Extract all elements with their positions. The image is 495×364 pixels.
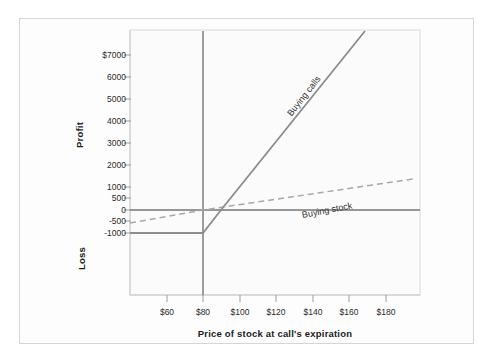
y-tick-label: 0 (121, 205, 126, 215)
figure-container: $7000 6000 5000 4000 3000 2000 1000 500 … (0, 0, 495, 364)
x-tick-label: $80 (196, 307, 210, 317)
y-tick-label: -1000 (104, 228, 126, 238)
y-tick-label: $7000 (102, 50, 126, 60)
y-tick-label: 2000 (107, 160, 126, 170)
x-axis-title: Price of stock at call's expiration (130, 328, 420, 339)
y-tick-label: 6000 (107, 72, 126, 82)
x-tick-marks (167, 295, 386, 302)
y-tick-label: 3000 (107, 138, 126, 148)
y-tick-label: 1000 (107, 182, 126, 192)
x-tick-label: $120 (267, 307, 286, 317)
y-axis-title-profit: Profit (74, 122, 85, 148)
x-tick-label: $160 (340, 307, 359, 317)
x-tick-label: $140 (304, 307, 323, 317)
y-tick-label: 500 (112, 193, 126, 203)
plot-background (130, 30, 420, 295)
x-tick-label: $60 (160, 307, 174, 317)
x-tick-label: $100 (231, 307, 250, 317)
y-tick-label: -500 (109, 216, 126, 226)
y-tick-label: 5000 (107, 94, 126, 104)
y-axis-title-loss: Loss (76, 247, 87, 270)
x-tick-label: $180 (377, 307, 396, 317)
y-tick-label: 4000 (107, 116, 126, 126)
y-tick-label-group: $7000 6000 5000 4000 3000 2000 1000 500 … (88, 0, 126, 364)
